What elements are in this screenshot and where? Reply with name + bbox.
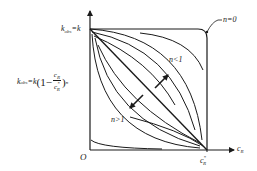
y-mid-den-sub: R (57, 87, 60, 92)
n-zero-leader-dot (206, 31, 208, 33)
y-mid-fraction: cR c*R (53, 72, 61, 92)
n-zero-leader (207, 20, 222, 32)
y-mid-rhs: =k (28, 78, 37, 86)
y-mid-label: kobs=k (1− cR c*R )n (17, 72, 68, 92)
y-mid-numerator: cR (53, 72, 61, 81)
y-mid-denominator: c*R (53, 81, 61, 92)
curve-n-greater-one-5 (91, 140, 162, 149)
n-greater-one-label: n>1 (111, 116, 124, 124)
arrow-n-greater-one (130, 95, 143, 108)
y-mid-den-sup: * (57, 81, 60, 86)
origin-label: O (80, 153, 87, 162)
y-mid-open: (1− (36, 77, 51, 88)
x-axis-label: cR (237, 145, 244, 154)
curve-n-greater-one-3 (98, 45, 200, 143)
y-top-lhs-sub: obs (65, 29, 72, 34)
y-top-rhs: =k (72, 24, 81, 33)
curve-n-greater-one-2 (95, 38, 200, 146)
curve-n-one (90, 29, 207, 150)
n-zero-label: n=0 (223, 16, 236, 24)
y-mid-exp: n (66, 80, 69, 85)
y-mid-lhs-sub: obs (21, 80, 28, 85)
y-mid-num-sub: R (57, 75, 60, 80)
x-tick-label: c*R (200, 155, 206, 166)
x-tick-label-sup: * (204, 155, 207, 160)
n-less-one-label: n<1 (169, 56, 182, 64)
x-tick-label-sub: R (203, 161, 206, 166)
arrow-n-less-one (155, 75, 168, 88)
curve-n-greater-one-1 (92, 34, 200, 148)
y-top-label: kobs=k (61, 25, 80, 34)
x-axis-label-sub: R (241, 149, 244, 154)
